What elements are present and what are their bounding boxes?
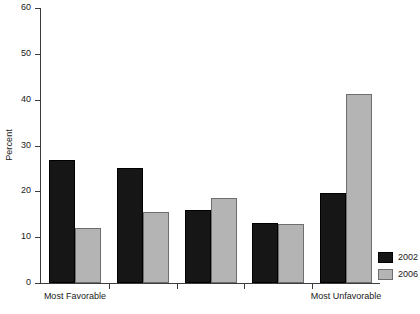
chart-legend: 20022006 [378, 250, 418, 284]
y-axis-tick [35, 100, 40, 101]
bar-2002-category-2 [117, 168, 143, 283]
x-axis-tick [109, 284, 110, 289]
bar-2002-category-4 [252, 223, 278, 283]
y-axis-tick-label: 10 [0, 232, 31, 241]
x-axis-tick [244, 284, 245, 289]
legend-item-2006: 2006 [378, 267, 418, 281]
y-axis-tick-label: 60 [0, 3, 31, 12]
bar-2006-category-4 [278, 224, 304, 283]
bar-2002-category-3 [185, 210, 211, 283]
y-axis-tick-label: 50 [0, 49, 31, 58]
y-axis-tick [35, 191, 40, 192]
y-axis-tick-label: 20 [0, 186, 31, 195]
bar-2002-category-5 [320, 193, 346, 283]
legend-label-2006: 2006 [398, 269, 418, 279]
y-axis-line [40, 8, 41, 284]
y-axis-tick [35, 146, 40, 147]
legend-item-2002: 2002 [378, 250, 418, 264]
legend-swatch-2002 [378, 252, 393, 263]
y-axis-tick [35, 237, 40, 238]
y-axis-tick-label: 30 [0, 141, 31, 150]
y-axis-tick [35, 54, 40, 55]
y-axis-tick [35, 8, 40, 9]
x-axis-caption-start: Most Favorable [44, 291, 106, 301]
x-axis-tick [177, 284, 178, 289]
bar-chart-figure: Percent 0102030405060 Most FavorableMost… [0, 0, 420, 314]
x-axis-tick [312, 284, 313, 289]
legend-swatch-2006 [378, 269, 393, 280]
y-axis-tick-label: 0 [0, 278, 31, 287]
x-axis-caption-end: Most Unfavorable [311, 291, 382, 301]
y-axis-tick-label: 40 [0, 95, 31, 104]
legend-label-2002: 2002 [398, 252, 418, 262]
bar-2006-category-2 [143, 212, 169, 284]
bar-2006-category-5 [346, 94, 372, 283]
x-axis-line [40, 283, 380, 284]
bar-2002-category-1 [49, 160, 75, 283]
bar-2006-category-1 [75, 228, 101, 283]
bar-2006-category-3 [211, 198, 237, 283]
